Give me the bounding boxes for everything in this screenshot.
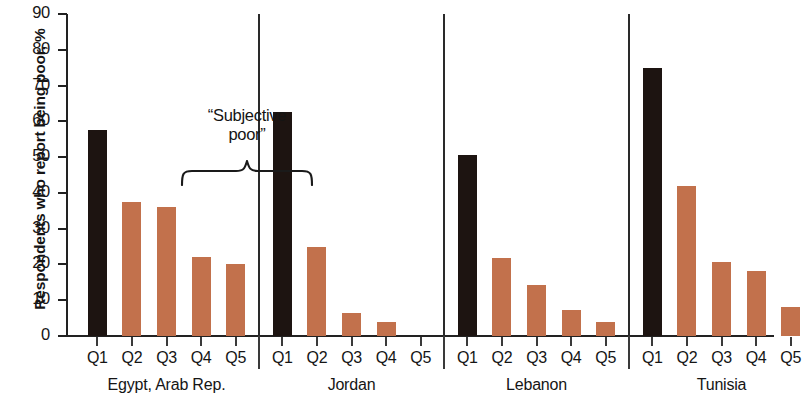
x-group-label: Tunisia [615,376,806,394]
x-tick [651,337,653,346]
x-tick [316,337,318,346]
x-tick [351,337,353,346]
x-tick [536,337,538,346]
annotation-line-1: “Subjective [182,106,312,125]
subjective-poor-annotation-label: “Subjectivepoor” [182,106,312,145]
x-tick [131,337,133,346]
group-separator [443,14,445,336]
x-tick [466,337,468,346]
y-tick-label: 50 [4,146,50,165]
bar [342,313,361,336]
bar [307,247,326,336]
x-group-label: Lebanon [430,376,643,394]
x-tick [420,337,422,346]
bar [562,310,581,336]
x-category-label: Q5 [771,349,806,367]
y-tick-label: 70 [4,75,50,94]
x-group-label: Egypt, Arab Rep. [60,376,273,394]
bar [458,155,477,336]
x-tick [605,337,607,346]
bar [712,262,731,336]
y-tick [58,85,67,87]
y-tick-label: 90 [4,3,50,22]
y-tick [58,299,67,301]
bar [122,202,141,336]
y-tick-label: 60 [4,110,50,129]
bar [377,322,396,336]
bar [226,264,245,336]
x-tick [570,337,572,346]
bar [596,322,615,336]
y-tick-label: 30 [4,218,50,237]
bar [492,258,511,336]
x-tick [166,337,168,346]
plot-area: 0102030405060708090 Q1Q2Q3Q4Q5Q1Q2Q3Q4Q5… [66,0,778,413]
y-tick [58,120,67,122]
y-axis-line [66,14,68,336]
y-tick-label: 80 [4,39,50,58]
bar [643,68,662,336]
bar [781,307,800,336]
bar [747,271,766,336]
x-tick [281,337,283,346]
x-tick [755,337,757,346]
x-category-label: Q5 [586,349,626,367]
y-tick [58,192,67,194]
bar [192,257,211,336]
group-separator [628,14,630,336]
x-tick [686,337,688,346]
x-tick [200,337,202,346]
x-tick [501,337,503,346]
x-tick [96,337,98,346]
bar [157,207,176,336]
y-tick [58,49,67,51]
y-tick [58,335,67,337]
x-group-label: Jordan [245,376,458,394]
curly-brace-icon [180,160,314,186]
group-separator [443,336,445,369]
y-tick-label: 40 [4,182,50,201]
group-separator [258,336,260,369]
x-category-label: Q5 [216,349,256,367]
bar [527,285,546,336]
bar [273,112,292,336]
group-separator [628,336,630,369]
y-tick [58,228,67,230]
x-tick [790,337,792,346]
y-tick-label: 20 [4,253,50,272]
y-tick-label: 0 [4,325,50,344]
y-tick [58,13,67,15]
y-tick [58,156,67,158]
y-tick [58,263,67,265]
x-tick [235,337,237,346]
x-tick [385,337,387,346]
bar [88,130,107,336]
y-tick-label: 10 [4,289,50,308]
x-category-label: Q5 [401,349,441,367]
annotation-line-2: poor” [182,125,312,144]
x-tick [721,337,723,346]
bar [677,186,696,336]
